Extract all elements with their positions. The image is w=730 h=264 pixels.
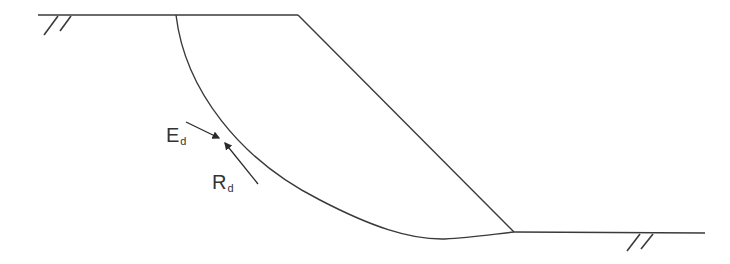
label-Ed-sub: d	[180, 135, 186, 147]
resistance-arrow-Rd-icon	[225, 143, 258, 184]
label-Ed: Ed	[166, 124, 186, 147]
ground-hatch-right-icon	[627, 234, 653, 251]
label-Ed-main: E	[166, 124, 179, 146]
slope-face	[298, 15, 514, 232]
lower-ground-surface	[514, 232, 705, 233]
action-arrow-Ed-icon	[186, 122, 219, 138]
ground-hatch-left-icon	[44, 16, 71, 35]
label-Rd-sub: d	[227, 182, 233, 194]
slope-stability-diagram: Ed Rd	[0, 0, 730, 264]
label-Rd: Rd	[212, 171, 234, 194]
label-Rd-main: R	[212, 171, 226, 193]
slip-circle-arc	[176, 15, 514, 239]
